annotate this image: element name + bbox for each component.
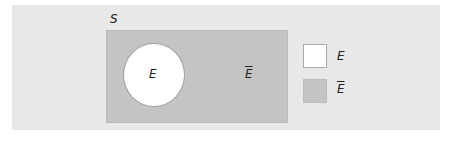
legend-label-complement: E [337, 82, 345, 96]
sample-space-label: S [110, 12, 118, 26]
event-label: E [149, 67, 157, 81]
legend-label-event: E [337, 49, 345, 63]
legend-swatch-event [303, 44, 327, 68]
legend-swatch-complement [303, 79, 327, 103]
complement-label: E [245, 67, 253, 81]
